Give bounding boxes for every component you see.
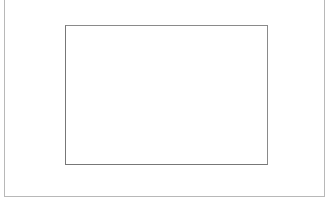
plot-area: [65, 25, 268, 165]
